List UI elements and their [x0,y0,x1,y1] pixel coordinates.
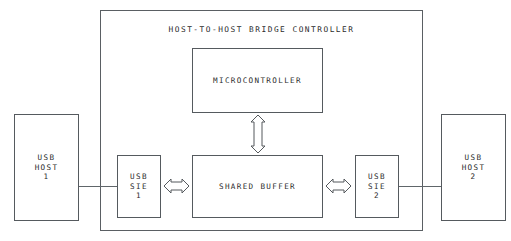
arrow-microcontroller-to-shared-buffer [250,114,266,154]
usb-host-2-block: USB HOST 2 [441,114,506,221]
connector-sie2-to-host2 [399,186,441,187]
usb-host-1-block: USB HOST 1 [14,114,79,221]
microcontroller-label: MICROCONTROLLER [213,76,302,86]
shared-buffer-block: SHARED BUFFER [192,155,323,218]
usb-sie-1-label: USB SIE 1 [130,172,148,201]
microcontroller-block: MICROCONTROLLER [192,48,323,113]
connector-host1-to-sie1 [79,186,117,187]
usb-sie-1-block: USB SIE 1 [117,155,161,218]
usb-host-1-label: USB HOST 1 [35,153,59,182]
page-title: HOST-TO-HOST BRIDGE CONTROLLER [100,25,423,34]
usb-sie-2-label: USB SIE 2 [368,172,386,201]
usb-host-2-label: USB HOST 2 [462,153,486,182]
shared-buffer-label: SHARED BUFFER [219,182,296,192]
block-diagram: HOST-TO-HOST BRIDGE CONTROLLER USB HOST … [0,0,511,241]
arrow-sie1-to-shared-buffer [163,178,190,194]
arrow-shared-buffer-to-sie2 [325,178,352,194]
usb-sie-2-block: USB SIE 2 [355,155,399,218]
